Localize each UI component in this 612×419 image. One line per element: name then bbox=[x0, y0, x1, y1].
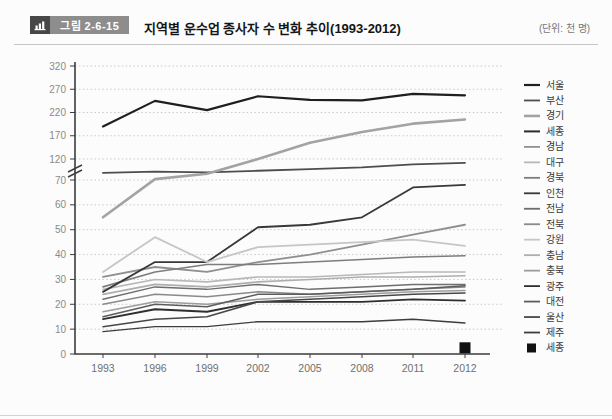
series-line-제주 bbox=[103, 319, 465, 331]
y-tick-label: 60 bbox=[55, 199, 67, 210]
legend-label: 강원 bbox=[546, 234, 564, 245]
legend-label: 인천 bbox=[546, 188, 564, 199]
series-line-부산 bbox=[103, 163, 465, 173]
report-figure-page: 그림 2-6-15 지역별 운수업 종사자 수 변화 추이(1993-2012)… bbox=[0, 0, 612, 419]
x-tick-label: 1996 bbox=[143, 362, 167, 374]
legend-item-부산: 부산 bbox=[524, 95, 564, 106]
legend-item-세종: 세종 bbox=[527, 342, 564, 353]
y-tick-label: 20 bbox=[55, 299, 67, 310]
legend-label: 부산 bbox=[546, 95, 564, 106]
legend-label: 대전 bbox=[546, 296, 564, 307]
legend-item-대전: 대전 bbox=[524, 296, 564, 307]
legend-label: 충북 bbox=[546, 265, 564, 276]
unit-label: (단위: 천 명) bbox=[539, 20, 590, 35]
legend-item-광주: 광주 bbox=[524, 281, 564, 292]
legend-item-경남: 경남 bbox=[524, 140, 564, 152]
legend-label: 전북 bbox=[546, 219, 564, 230]
x-tick-label: 2005 bbox=[298, 362, 322, 374]
y-tick-label: 320 bbox=[49, 61, 66, 72]
figure-number-label: 그림 2-6-15 bbox=[50, 16, 129, 34]
legend-item-충남: 충남 bbox=[524, 250, 564, 261]
x-tick-label: 2011 bbox=[402, 362, 425, 374]
legend-label: 충남 bbox=[546, 250, 564, 261]
chart-svg: 0102030405060701201702202703201993199619… bbox=[0, 46, 612, 416]
legend-item-강원: 강원 bbox=[524, 234, 564, 245]
legend-label: 울산 bbox=[546, 312, 564, 323]
page-bottom-edge bbox=[0, 415, 612, 416]
axis-lines bbox=[75, 62, 490, 354]
figure-label-tag: 그림 2-6-15 bbox=[30, 16, 129, 34]
x-tick-label: 2002 bbox=[246, 362, 270, 374]
x-tick-label: 1999 bbox=[195, 362, 219, 374]
legend-item-세종: 세종 bbox=[524, 126, 564, 137]
legend-item-대구: 대구 bbox=[524, 157, 564, 168]
y-tick-label: 0 bbox=[60, 349, 66, 360]
series-line-경남 bbox=[103, 225, 465, 277]
chart-title: 지역별 운수업 종사자 수 변화 추이(1993-2012) bbox=[144, 18, 401, 37]
series-line-경기 bbox=[103, 119, 465, 217]
series-line-서울 bbox=[103, 94, 465, 127]
legend-label: 경남 bbox=[546, 140, 564, 152]
y-tick-label: 50 bbox=[55, 224, 67, 235]
legend-label: 세종 bbox=[546, 342, 564, 353]
header-divider bbox=[14, 44, 598, 45]
legend-item-인천: 인천 bbox=[524, 188, 564, 199]
legend-item-경기: 경기 bbox=[524, 109, 564, 121]
x-tick-label: 2012 bbox=[453, 362, 477, 374]
legend-item-제주: 제주 bbox=[524, 327, 564, 338]
y-tick-label: 10 bbox=[55, 324, 67, 335]
legend-label: 제주 bbox=[546, 327, 564, 338]
legend-item-전남: 전남 bbox=[524, 203, 564, 214]
y-tick-label: 30 bbox=[55, 274, 67, 285]
series-marker-세종 bbox=[460, 342, 471, 353]
y-tick-label: 70 bbox=[55, 175, 67, 186]
legend-item-충북: 충북 bbox=[524, 265, 564, 276]
legend-label: 세종 bbox=[546, 126, 564, 137]
legend-item-전북: 전북 bbox=[524, 219, 564, 230]
x-tick-label: 1993 bbox=[91, 362, 115, 374]
legend-label: 서울 bbox=[546, 80, 564, 91]
y-tick-label: 40 bbox=[55, 249, 67, 260]
y-tick-label: 120 bbox=[49, 154, 66, 165]
y-tick-label: 270 bbox=[49, 84, 66, 95]
legend-label: 광주 bbox=[546, 281, 564, 292]
legend-item-서울: 서울 bbox=[524, 80, 564, 91]
legend-label: 경기 bbox=[546, 109, 564, 121]
y-tick-label: 220 bbox=[49, 107, 66, 118]
legend-item-울산: 울산 bbox=[524, 312, 564, 323]
legend-label: 전남 bbox=[546, 203, 564, 214]
legend-label: 경북 bbox=[546, 171, 564, 183]
bar-chart-icon bbox=[30, 16, 50, 34]
legend-label: 대구 bbox=[546, 157, 564, 168]
y-tick-label: 170 bbox=[49, 130, 66, 141]
legend-item-경북: 경북 bbox=[524, 171, 564, 183]
x-tick-label: 2008 bbox=[350, 362, 374, 374]
